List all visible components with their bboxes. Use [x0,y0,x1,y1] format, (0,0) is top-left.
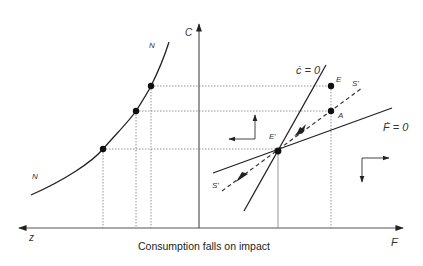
f-dot-zero-label: Ḟ = 0 [383,121,409,133]
n-dot-2 [133,108,139,114]
f-dot-zero-line [213,108,392,173]
c-axis-label: C [185,27,193,38]
guide-lines [103,86,331,228]
point-e-dot [328,83,334,89]
point-eprime-dot [275,148,282,155]
point-a-dot [328,108,334,114]
n-curve [31,42,169,195]
n-lower-label: N [32,172,38,181]
c-dot-zero-line [244,65,326,211]
n-dot-3 [100,146,106,152]
point-a-label: A [337,111,343,120]
point-e-label: E [336,75,342,84]
n-dot-1 [148,83,154,89]
axes [19,24,403,228]
z-axis-label: z [28,232,34,243]
caption: Consumption falls on impact [138,240,270,252]
point-eprime-label: E' [269,132,276,141]
saddle-upper-label: S' [352,79,359,88]
n-upper-label: N [149,41,155,50]
saddle-lower-label: S' [212,181,219,190]
c-dot-zero-label: ċ = 0 [296,64,321,76]
direction-arrows-left [229,115,255,139]
f-axis-label: F [391,236,399,248]
phase-diagram: C z F N N ċ = 0 Ḟ = 0 E A E' S' S' Consu… [0,0,423,266]
direction-arrows-right [362,158,389,182]
saddle-arrow-lower-icon [236,172,248,182]
